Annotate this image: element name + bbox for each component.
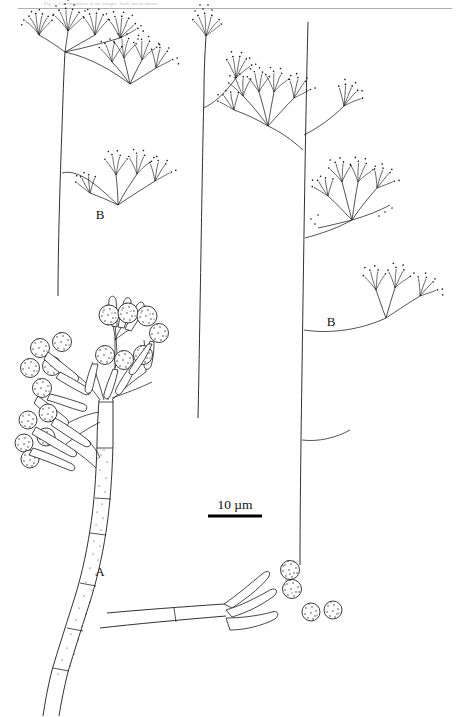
figure-plate: Fig. 1. Conidiophores of the fungus. Sca…	[0, 0, 469, 717]
conidial-head	[53, 332, 72, 351]
conidial-head	[15, 434, 33, 452]
conidial-head	[33, 378, 52, 397]
conidial-head	[137, 305, 157, 326]
conidial-head	[118, 302, 138, 323]
label-b-right: B	[327, 314, 336, 329]
conidial-head	[283, 579, 302, 598]
scale-bar-label: 10 µm	[217, 497, 253, 512]
conidial-head	[21, 358, 40, 377]
detached-conidium	[302, 603, 320, 621]
conidial-head	[99, 304, 119, 325]
caption-ghost-text: Fig. 1. Conidiophores of the fungus. Sca…	[44, 1, 159, 6]
label-b-left: B	[96, 207, 105, 222]
conidial-head	[19, 411, 37, 429]
detached-conidium	[324, 601, 342, 619]
illustration-canvas: Fig. 1. Conidiophores of the fungus. Sca…	[0, 0, 469, 717]
conidial-head	[96, 345, 115, 364]
label-a: A	[95, 564, 105, 579]
